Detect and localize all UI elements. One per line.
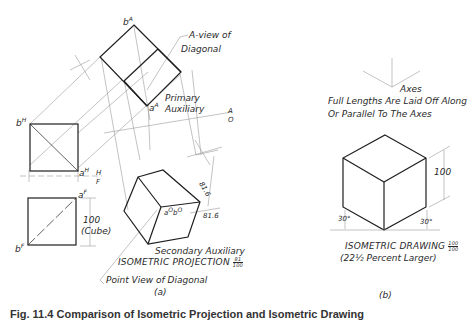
label-b-H: bH: [16, 118, 26, 128]
note-secondary-auxiliary: Secondary Auxiliary: [155, 246, 245, 256]
object-lines: [28, 25, 426, 245]
note-primary-line2: Auxiliary: [165, 104, 204, 114]
note-a-view-line1: A-view of: [189, 30, 231, 40]
angle-left-30: 30°: [338, 214, 350, 224]
panel-b-label: (b): [379, 290, 392, 300]
angle-right-30: 30°: [420, 217, 432, 227]
note-axes: Axes: [400, 84, 422, 94]
panel-b-construction: [330, 58, 450, 230]
title-isometric-projection: ISOMETRIC PROJECTION81100: [118, 257, 243, 268]
note-axes-line1: Full Lengths Are Laid Off Along: [328, 96, 467, 106]
fold-label-O: O: [228, 115, 234, 125]
label-b-A: bA: [123, 17, 133, 27]
label-ab-O: aObO: [164, 208, 182, 218]
panel-a-label: (a): [154, 287, 167, 297]
note-point-view: Point View of Diagonal: [106, 275, 207, 285]
label-a-F: aF: [78, 190, 87, 200]
fold-label-F: F: [96, 177, 100, 187]
label-a-H: aH: [79, 168, 89, 178]
dim-side-81-6: 81.6: [203, 211, 219, 221]
note-primary-line1: Primary: [165, 93, 200, 103]
note-axes-line2: Or Parallel To The Axes: [328, 109, 432, 119]
note-percent-larger: (22½ Percent Larger): [340, 253, 436, 263]
note-a-view-line2: Diagonal: [181, 44, 221, 54]
note-cube-dim: 100: [83, 215, 100, 225]
note-cube: (Cube): [81, 226, 111, 236]
label-b-F: bF: [15, 244, 24, 254]
figure-caption: Fig. 11.4 Comparison of Isometric Projec…: [10, 308, 364, 320]
title-isometric-drawing: ISOMETRIC DRAWING100100: [345, 241, 458, 252]
dim-100: 100: [434, 167, 451, 177]
label-a-A: aA: [149, 103, 159, 113]
